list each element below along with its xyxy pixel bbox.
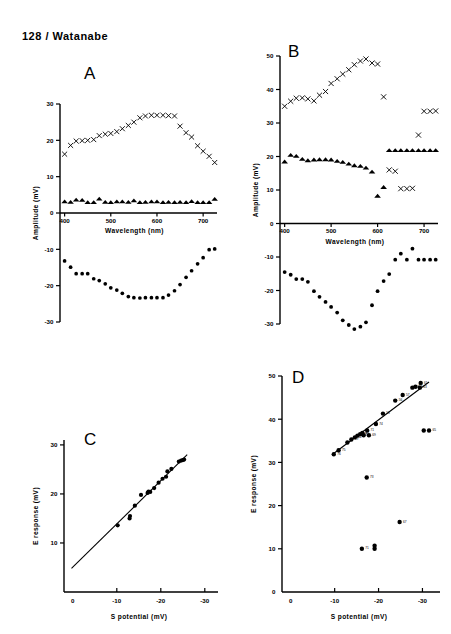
- data-point: [166, 113, 171, 118]
- axis-text: 0: [289, 597, 293, 604]
- data-point: [352, 62, 357, 67]
- axis-text: Amplitude (mV): [32, 186, 40, 240]
- data-point-label: 53: [386, 411, 390, 415]
- axis-text: 50: [267, 52, 274, 59]
- data-point: [144, 296, 148, 300]
- data-point: [357, 164, 364, 168]
- axis-text: 10: [51, 539, 58, 546]
- data-point: [150, 296, 154, 300]
- data-point: [294, 96, 299, 101]
- data-point: [369, 170, 376, 174]
- data-point: [335, 76, 340, 81]
- data-point: [345, 162, 352, 166]
- axis-text: 40: [269, 416, 276, 423]
- data-point: [346, 67, 351, 72]
- axis-text: -10: [112, 597, 122, 604]
- data-point: [90, 200, 96, 204]
- data-point: [212, 160, 217, 165]
- axis-text: 10: [47, 173, 54, 180]
- axis-text: 30: [267, 119, 274, 126]
- axis-text: -30: [200, 597, 210, 604]
- data-point: [165, 200, 171, 204]
- series-triangle: [281, 148, 439, 197]
- page-header: 128 / Watanabe: [22, 30, 108, 42]
- data-point: [177, 200, 183, 204]
- data-point: [178, 283, 182, 287]
- data-point: [167, 293, 171, 297]
- series-triangle: [61, 197, 218, 204]
- axis-text: -30: [265, 320, 275, 327]
- axis-text: 30: [269, 459, 276, 466]
- data-point: [386, 148, 393, 152]
- data-point: [201, 149, 206, 154]
- data-point: [411, 247, 415, 251]
- data-point: [387, 272, 391, 276]
- axis-text: 0: [71, 597, 75, 604]
- data-point: [365, 428, 369, 432]
- data-point: [358, 325, 362, 329]
- data-point: [300, 277, 304, 281]
- data-point: [183, 200, 189, 204]
- data-point: [329, 81, 334, 86]
- data-series: [116, 458, 187, 528]
- data-point: [108, 131, 113, 136]
- data-point: [417, 258, 421, 262]
- series-cross: [62, 113, 217, 165]
- data-point: [115, 288, 119, 292]
- data-point: [213, 247, 217, 251]
- data-point: [137, 115, 142, 120]
- data-point: [184, 130, 189, 135]
- data-point: [80, 272, 84, 276]
- data-point: [294, 277, 298, 281]
- data-point: [334, 159, 341, 163]
- data-point: [340, 72, 345, 77]
- data-point: [293, 154, 300, 158]
- data-point-label: 57: [406, 393, 410, 397]
- data-point: [324, 300, 328, 304]
- panel-c-plot: 1020300-10-20-30S potential (mV)E respon…: [22, 400, 232, 630]
- data-point-label: 71: [365, 546, 369, 550]
- data-point: [328, 158, 335, 162]
- axis-text: -20: [45, 282, 55, 289]
- data-point: [125, 200, 131, 204]
- data-point-label: 65: [432, 428, 436, 432]
- axis-text: 50: [269, 372, 276, 379]
- data-point: [92, 277, 96, 281]
- data-point: [398, 186, 403, 191]
- data-point: [207, 154, 212, 159]
- data-point: [69, 265, 73, 269]
- data-point: [299, 157, 306, 161]
- data-point: [152, 486, 156, 490]
- axis-text: 10: [267, 186, 274, 193]
- data-point: [428, 258, 432, 262]
- data-point: [184, 275, 188, 279]
- panel-a-plot: -30-20-100102030400500600700Wavelength (…: [22, 60, 227, 330]
- data-point: [433, 108, 438, 113]
- data-point: [393, 398, 397, 402]
- data-point: [347, 323, 351, 327]
- axis-text: 500: [326, 227, 337, 234]
- axis-text: -30: [418, 597, 428, 604]
- data-series: [281, 56, 439, 330]
- data-point: [405, 258, 409, 262]
- data-point: [139, 493, 143, 497]
- data-point: [416, 132, 421, 137]
- data-point: [160, 477, 164, 481]
- data-point: [120, 126, 125, 131]
- axis-text: Wavelength (nm): [105, 227, 164, 235]
- data-point: [376, 289, 380, 293]
- panel-d: D 010203040500-10-20-30S potential (mV)E…: [240, 370, 450, 632]
- data-point: [172, 113, 177, 118]
- axis-text: 20: [269, 502, 276, 509]
- data-point: [422, 258, 426, 262]
- axis-text: -10: [265, 253, 275, 260]
- data-point: [363, 166, 370, 170]
- data-point: [171, 200, 177, 204]
- data-point: [86, 272, 90, 276]
- data-point: [393, 258, 397, 262]
- data-point: [375, 61, 380, 66]
- panel-a-letter: A: [84, 64, 95, 84]
- data-point: [381, 94, 386, 99]
- data-point: [195, 143, 200, 148]
- data-point: [422, 428, 426, 432]
